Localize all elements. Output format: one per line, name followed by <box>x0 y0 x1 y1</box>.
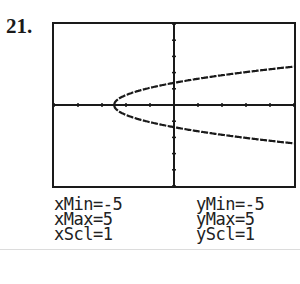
yscl-label: yScl=1 <box>196 227 264 242</box>
xscl-label: xScl=1 <box>54 227 122 242</box>
graph-plot <box>0 0 300 200</box>
window-settings-y: yMin=-5 yMax=5 yScl=1 <box>196 197 264 242</box>
divider-line <box>0 249 300 250</box>
window-settings-x: xMin=-5 xMax=5 xScl=1 <box>54 197 122 242</box>
axes <box>54 24 294 186</box>
